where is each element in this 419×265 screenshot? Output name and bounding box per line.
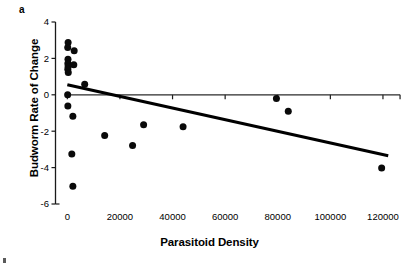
x-tick-label: 100000 <box>315 211 347 222</box>
data-point <box>81 81 88 88</box>
data-point <box>71 47 78 54</box>
data-point <box>180 123 187 130</box>
y-tick-label: -2 <box>41 126 49 137</box>
data-point <box>65 69 72 76</box>
data-point <box>285 108 292 115</box>
data-point <box>378 164 385 171</box>
data-point <box>69 113 76 120</box>
x-tick-label: 0 <box>65 211 70 222</box>
x-tick-label: 20000 <box>107 211 133 222</box>
x-tick-label: 120000 <box>367 211 399 222</box>
data-point <box>129 142 136 149</box>
figure-panel: a Budworm Rate of Change Parasitoid Dens… <box>0 0 419 265</box>
y-tick-label: 4 <box>44 16 49 27</box>
y-axis: 420-2-4-6 <box>41 16 56 209</box>
scatter-plot-canvas: 420-2-4-6 020000400006000080000100000120… <box>0 0 419 265</box>
y-tick-label: -6 <box>41 198 49 209</box>
data-point <box>64 44 71 51</box>
data-point <box>64 103 71 110</box>
y-tick-label: -4 <box>41 162 49 173</box>
data-point <box>68 150 75 157</box>
x-tick-label: 60000 <box>212 211 238 222</box>
page-edge-artifact <box>3 258 6 263</box>
data-point <box>64 91 71 98</box>
data-point <box>101 132 108 139</box>
data-points <box>64 39 385 190</box>
x-tick-label: 40000 <box>159 211 185 222</box>
y-tick-label: 2 <box>44 53 49 64</box>
y-tick-label: 0 <box>44 89 49 100</box>
data-point <box>69 183 76 190</box>
x-tick-label: 80000 <box>265 211 291 222</box>
x-axis: 020000400006000080000100000120000 <box>56 95 401 222</box>
data-point <box>273 95 280 102</box>
data-point <box>140 121 147 128</box>
